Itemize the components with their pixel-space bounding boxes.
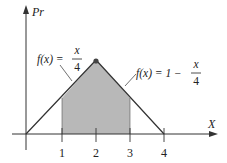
right-formula: f(x) = 1 − x 4 xyxy=(125,58,201,87)
x-tick-2: 2 xyxy=(93,146,99,160)
svg-text:x: x xyxy=(192,58,199,70)
left-formula: f(x) = x 4 xyxy=(37,44,82,81)
x-tick-4: 4 xyxy=(161,146,167,160)
x-axis-arrow-icon xyxy=(209,131,218,137)
y-axis-arrow-icon xyxy=(23,5,29,14)
x-tick-1: 1 xyxy=(59,146,65,160)
peak-point xyxy=(93,58,98,63)
svg-text:4: 4 xyxy=(193,75,199,87)
svg-text:f(x) =: f(x) = xyxy=(37,53,64,66)
x-tick-3: 3 xyxy=(127,146,133,160)
svg-text:f(x) = 1 −: f(x) = 1 − xyxy=(136,67,182,80)
svg-text:x: x xyxy=(73,44,80,56)
triangle-distribution-diagram: 1 2 3 4 Pr X f(x) = x 4 f(x) = 1 − x 4 xyxy=(0,0,227,163)
y-axis-label: Pr xyxy=(31,5,44,19)
svg-text:4: 4 xyxy=(74,61,80,73)
shaded-area xyxy=(62,60,130,134)
x-axis-label: X xyxy=(207,117,216,131)
